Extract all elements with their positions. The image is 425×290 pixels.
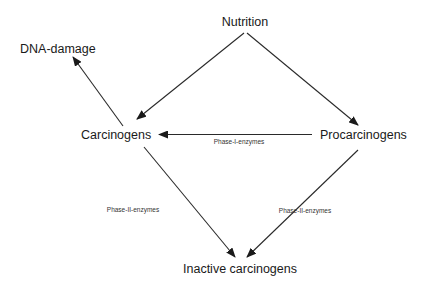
node-inactive-carcinogens: Inactive carcinogens (183, 262, 297, 276)
node-nutrition: Nutrition (222, 15, 269, 29)
node-carcinogens: Carcinogens (81, 128, 151, 142)
edge-procarcinogens-to-inactive (247, 150, 358, 257)
edge-label-phase2-left: Phase-II-enzymes (107, 206, 160, 214)
edge-carcinogens-to-dna-damage (73, 57, 123, 126)
edge-carcinogens-to-inactive (144, 147, 235, 257)
edge-label-phase2-right: Phase-II-enzymes (279, 207, 332, 215)
edge-label-phase1: Phase-I-enzymes (214, 138, 265, 146)
node-procarcinogens: Procarcinogens (320, 128, 407, 142)
node-dna-damage: DNA-damage (20, 42, 96, 56)
carcinogen-metabolism-diagram: Nutrition DNA-damage Carcinogens Procarc… (0, 0, 425, 290)
edge-nutrition-to-carcinogens (137, 33, 244, 119)
edge-nutrition-to-procarcinogens (247, 33, 358, 125)
